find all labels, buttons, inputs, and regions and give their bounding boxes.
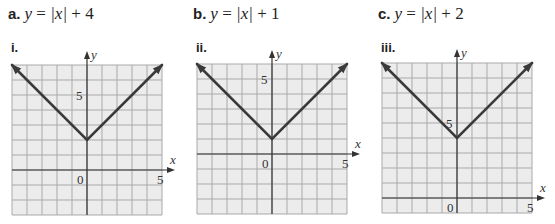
- x-tick-label: 5: [527, 200, 534, 215]
- y-axis-label: y: [459, 45, 467, 60]
- graphs-canvas: xy055 xy055 xy055: [0, 0, 555, 224]
- y-axis-arrow-icon: [454, 49, 460, 57]
- x-axis-arrow-icon: [352, 151, 360, 157]
- y-axis-arrow-icon: [269, 50, 275, 58]
- x-tick-label: 0: [447, 200, 454, 215]
- graph-ii: xy055: [196, 46, 361, 214]
- x-tick-label: 5: [342, 156, 349, 171]
- x-axis-label: x: [169, 152, 176, 167]
- y-axis-arrow-icon: [84, 51, 90, 59]
- x-tick-label: 0: [262, 156, 269, 171]
- x-tick-label: 5: [157, 172, 164, 187]
- x-tick-label: 0: [77, 172, 84, 187]
- graph-iii: xy055: [381, 45, 546, 215]
- x-axis-label: x: [539, 180, 546, 195]
- y-axis-label: y: [274, 46, 282, 61]
- graph-i: xy055: [11, 47, 176, 215]
- x-axis-arrow-icon: [537, 195, 545, 201]
- x-axis-label: x: [354, 136, 361, 151]
- x-axis-arrow-icon: [167, 167, 175, 173]
- y-tick-label: 5: [261, 72, 268, 87]
- y-tick-label: 5: [76, 88, 83, 103]
- y-axis-label: y: [89, 47, 97, 62]
